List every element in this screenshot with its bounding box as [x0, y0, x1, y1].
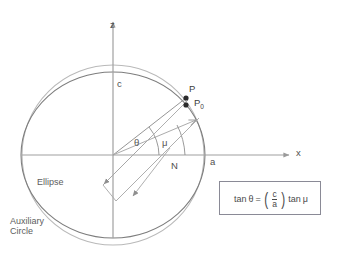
formula-denominator: a	[272, 199, 277, 209]
ellipse-name-label: Ellipse	[37, 177, 64, 187]
band-arrow-upper	[104, 138, 150, 184]
formula-equals-sign: =	[256, 194, 261, 204]
angle-mu-label: μ	[162, 138, 167, 149]
z-axis-label: z	[110, 20, 115, 31]
figure-canvas: z x c a N P P0 θ μ Ellipse Auxiliary Cir…	[0, 0, 342, 260]
point-P0-label: P0	[194, 98, 204, 110]
band-cap-line	[103, 185, 116, 201]
formula-right-paren: )	[281, 191, 285, 207]
formula-numerator: c	[272, 190, 276, 199]
theta-ray-line	[113, 98, 186, 155]
semi-minor-axis-label: c	[117, 79, 122, 90]
point-P0-marker	[183, 102, 188, 107]
x-axis-label: x	[296, 148, 301, 159]
point-P0-label-subscript: 0	[200, 103, 204, 110]
formula-expression: tan θ = ( c a ) tan μ	[220, 182, 322, 216]
formula-rhs-function: tan	[288, 194, 301, 204]
semi-major-axis-label: a	[210, 157, 215, 168]
formula-left-paren: (	[264, 191, 268, 207]
formula-box: tan θ = ( c a ) tan μ	[219, 181, 321, 215]
formula-lhs-function: tan	[234, 194, 247, 204]
formula-rhs-variable: μ	[303, 194, 308, 204]
point-P-marker	[183, 95, 188, 100]
foot-point-N-label: N	[171, 161, 178, 172]
formula-lhs-variable: θ	[249, 194, 254, 204]
theta-arc	[149, 127, 159, 155]
point-P-label: P	[189, 84, 195, 95]
formula-fraction: c a	[272, 190, 277, 209]
mu-ray-line	[113, 120, 196, 155]
geometry-diagram-svg	[0, 0, 342, 260]
auxiliary-circle-label-line2: Circle	[10, 226, 33, 236]
mu-arc	[177, 125, 185, 155]
angle-theta-label: θ	[134, 138, 139, 149]
auxiliary-circle-label-line1: Auxiliary	[10, 216, 44, 226]
